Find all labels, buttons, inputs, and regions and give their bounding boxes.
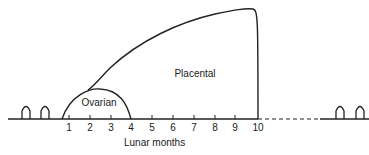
axis-label: Lunar months: [124, 137, 185, 148]
tick-label: 6: [170, 122, 176, 133]
placental-label: Placental: [174, 68, 215, 79]
ovarian-label: Ovarian: [81, 97, 116, 108]
tick-label: 5: [149, 122, 155, 133]
tick-label: 4: [128, 122, 134, 133]
tick-label: 2: [87, 122, 93, 133]
tick-label: 9: [232, 122, 238, 133]
cycle-bump-left-2: [41, 107, 49, 120]
tick-label: 8: [212, 122, 218, 133]
cycle-bump-right-2: [356, 107, 364, 120]
tick-label: 3: [108, 122, 114, 133]
hormone-diagram: 1 2 3 4 5 6 7 8 9 10 Ovarian Placental L…: [0, 0, 369, 155]
cycle-bump-left-1: [22, 107, 30, 120]
tick-label: 10: [252, 122, 264, 133]
cycle-bump-right-1: [336, 107, 344, 120]
tick-label: 7: [191, 122, 197, 133]
tick-label: 1: [66, 122, 72, 133]
